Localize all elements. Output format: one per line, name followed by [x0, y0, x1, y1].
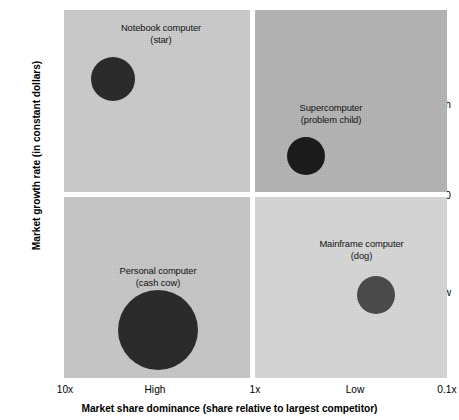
label-dog: Mainframe computer (dog)	[276, 238, 447, 261]
label-dog-line2: (dog)	[276, 250, 447, 262]
quadrant-dog	[255, 197, 447, 378]
bubble-star	[91, 57, 135, 101]
x-tick-1x: 1x	[220, 384, 290, 395]
y-axis-title: Market growth rate (in constant dollars)	[31, 36, 42, 276]
bubble-problem-child	[287, 137, 325, 175]
bubble-dog	[357, 276, 395, 314]
x-axis-title: Market share dominance (share relative t…	[0, 403, 459, 414]
label-problem-child-line1: Supercomputer	[251, 102, 411, 114]
x-tick-low: Low	[320, 384, 390, 395]
label-star-line2: (star)	[64, 34, 258, 46]
label-star: Notebook computer (star)	[64, 22, 258, 45]
label-cash-cow-line1: Personal computer	[64, 265, 252, 277]
label-cash-cow-line2: (cash cow)	[64, 277, 252, 289]
x-tick-high: High	[120, 384, 190, 395]
label-dog-line1: Mainframe computer	[276, 238, 447, 250]
x-tick-10x: 10x	[30, 384, 100, 395]
quadrant-problem-child	[255, 10, 447, 192]
bubble-cash-cow	[118, 290, 198, 370]
label-problem-child-line2: (problem child)	[251, 114, 411, 126]
x-tick-01x: 0.1x	[412, 384, 459, 395]
label-cash-cow: Personal computer (cash cow)	[64, 265, 252, 288]
label-star-line1: Notebook computer	[64, 22, 258, 34]
label-problem-child: Supercomputer (problem child)	[251, 102, 411, 125]
bcg-growth-share-matrix: Market growth rate (in constant dollars)…	[0, 0, 459, 420]
plot-area: Notebook computer (star) Supercomputer (…	[64, 10, 447, 378]
